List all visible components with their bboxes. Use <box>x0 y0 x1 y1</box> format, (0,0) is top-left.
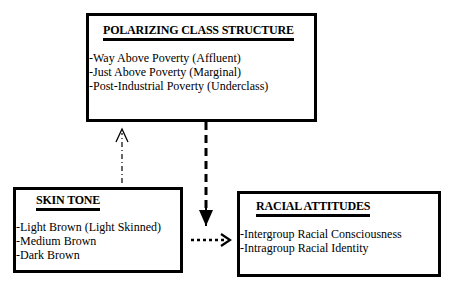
arrow-skin-to-attitudes <box>191 234 230 246</box>
arrow-skin-to-class <box>116 129 128 183</box>
arrows-layer <box>0 0 457 295</box>
arrow-class-to-attitudes <box>199 122 213 226</box>
